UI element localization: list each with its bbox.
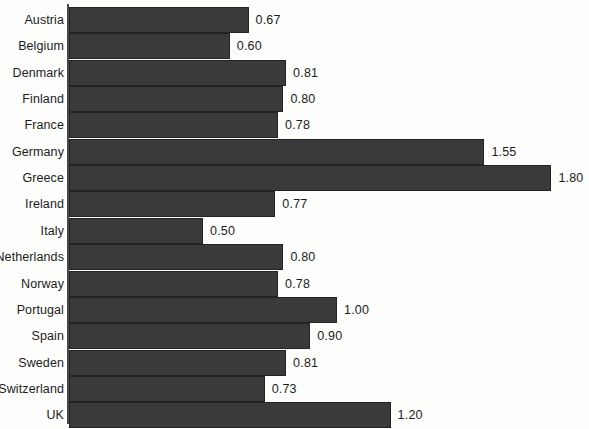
- bar: [69, 60, 286, 86]
- bar: [69, 350, 286, 376]
- bar: [69, 86, 283, 112]
- bar: [69, 218, 203, 244]
- bar-value-label: 0.80: [290, 86, 315, 112]
- bar-row: Austria0.67: [0, 7, 589, 33]
- bar: [69, 7, 249, 33]
- bar-value-label: 0.80: [290, 244, 315, 270]
- bar-value-label: 0.78: [285, 112, 310, 138]
- bar-value-label: 1.80: [558, 165, 583, 191]
- category-label: Finland: [22, 86, 64, 112]
- bar: [69, 323, 310, 349]
- category-label: Sweden: [18, 350, 64, 376]
- category-label: Denmark: [13, 60, 64, 86]
- category-label: Norway: [21, 271, 64, 297]
- bar-row: Sweden0.81: [0, 350, 589, 376]
- bar-row: Germany1.55: [0, 139, 589, 165]
- category-label: UK: [46, 402, 64, 428]
- category-label: Spain: [32, 323, 64, 349]
- bar: [69, 244, 283, 270]
- bar-value-label: 0.90: [317, 323, 342, 349]
- bar-row: Switzerland0.73: [0, 376, 589, 402]
- bar-row: France0.78: [0, 112, 589, 138]
- bar-row: Greece1.80: [0, 165, 589, 191]
- bar: [69, 297, 337, 323]
- bar-row: UK1.20: [0, 402, 589, 428]
- bar-row: Spain0.90: [0, 323, 589, 349]
- bar-value-label: 0.60: [237, 33, 262, 59]
- bar-row: Portugal1.00: [0, 297, 589, 323]
- bar: [69, 112, 278, 138]
- bar-row: Italy0.50: [0, 218, 589, 244]
- category-label: Greece: [22, 165, 64, 191]
- bar-value-label: 1.20: [398, 402, 423, 428]
- category-label: Italy: [41, 218, 64, 244]
- category-label: France: [24, 112, 64, 138]
- bar-row: Netherlands0.80: [0, 244, 589, 270]
- category-label: Netherlands: [0, 244, 64, 270]
- bar-row: Belgium0.60: [0, 33, 589, 59]
- bar-row: Denmark0.81: [0, 60, 589, 86]
- bar-value-label: 0.67: [256, 7, 281, 33]
- bar-chart: Austria0.67Belgium0.60Denmark0.81Finland…: [0, 0, 589, 429]
- bar-row: Norway0.78: [0, 271, 589, 297]
- bar: [69, 33, 230, 59]
- category-label: Ireland: [25, 191, 64, 217]
- bar-value-label: 0.50: [210, 218, 235, 244]
- bar-value-label: 0.78: [285, 271, 310, 297]
- bar-value-label: 0.81: [293, 350, 318, 376]
- bar-value-label: 1.55: [491, 139, 516, 165]
- bar: [69, 402, 391, 428]
- category-label: Germany: [12, 139, 64, 165]
- category-label: Austria: [24, 7, 64, 33]
- bar-row: Finland0.80: [0, 86, 589, 112]
- bar: [69, 376, 265, 402]
- category-label: Switzerland: [0, 376, 64, 402]
- bar: [69, 139, 484, 165]
- bar: [69, 271, 278, 297]
- bar: [69, 165, 551, 191]
- bar-value-label: 0.77: [282, 191, 307, 217]
- bar-value-label: 0.73: [272, 376, 297, 402]
- bar-value-label: 0.81: [293, 60, 318, 86]
- bar: [69, 191, 275, 217]
- bar-value-label: 1.00: [344, 297, 369, 323]
- category-label: Belgium: [18, 33, 64, 59]
- bar-row: Ireland0.77: [0, 191, 589, 217]
- category-label: Portugal: [17, 297, 64, 323]
